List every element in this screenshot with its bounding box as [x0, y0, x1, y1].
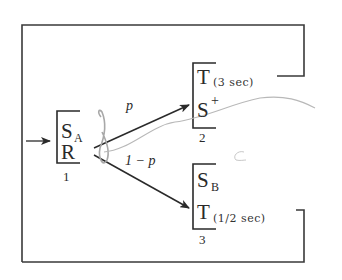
state-3-line-2-main: T	[197, 202, 210, 223]
state-2-line-2-sup: +	[211, 94, 219, 108]
state-3-line-1-main: S	[197, 170, 209, 191]
state-1-line-2-main: R	[61, 142, 75, 163]
state-2-line-2-main: S	[197, 100, 209, 121]
transition-label-p: p	[126, 99, 133, 113]
state-2-number: 2	[199, 131, 206, 144]
pencil-scribble-loop	[99, 110, 108, 163]
state-2-line-1-sub: (3 sec)	[213, 77, 254, 88]
state-3-line-2-sub: (1/2 sec)	[213, 213, 266, 224]
state-3-line-1-sub: B	[211, 181, 219, 193]
transition-1-to-2	[94, 105, 189, 148]
state-3-number: 3	[199, 233, 206, 246]
pencil-scribble-curve	[104, 97, 315, 152]
state-1-line-1-sub: A	[74, 132, 83, 144]
state-1-line-1-main: S	[61, 121, 73, 142]
pencil-scribble-small	[235, 152, 246, 161]
state-2-line-1-main: T	[197, 67, 210, 88]
transition-label-1-minus-p: 1 − p	[125, 154, 155, 168]
diagram-lines	[0, 0, 342, 280]
state-1-number: 1	[63, 170, 70, 183]
